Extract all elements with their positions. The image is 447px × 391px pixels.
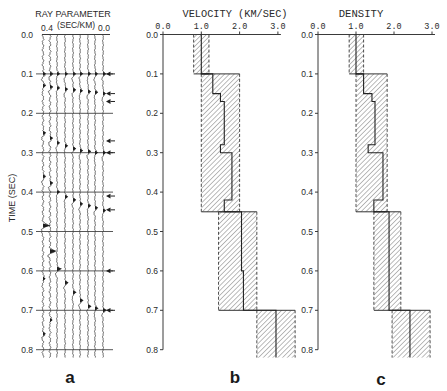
velocity-bounds-layer-fill (219, 212, 257, 310)
density-y-tick-label: 0.1 (301, 69, 313, 79)
panel-a-x-tick-label-right: 0.0 (98, 23, 110, 33)
density-y-tick-label: 0.7 (301, 305, 313, 315)
density-y-tick-label: 0.2 (301, 108, 313, 118)
density-x-tick-label: 3.0 (424, 22, 439, 32)
panel-a-y-tick-label: 0.6 (21, 266, 33, 276)
density-y-tick-label: 0.0 (301, 30, 313, 40)
velocity-x-tick-label: 3.0 (270, 22, 285, 32)
velocity-y-tick-label: 0.8 (146, 345, 158, 355)
panel-a-y-tick-label: 0.4 (21, 187, 33, 197)
density-y-tick-label: 0.4 (301, 187, 313, 197)
velocity-y-tick-label: 0.0 (146, 30, 158, 40)
velocity-x-tick-label: 1.0 (194, 22, 209, 32)
density-y-tick-label: 0.3 (301, 148, 313, 158)
velocity-x-tick-label: 2.0 (232, 22, 247, 32)
velocity-y-tick-label: 0.2 (146, 108, 158, 118)
velocity-y-tick-label: 0.3 (146, 148, 158, 158)
panel-a-y-tick-label: 0.0 (21, 30, 33, 40)
panel-c-letter: c (376, 370, 385, 389)
panel-a-y-tick-label: 0.3 (21, 148, 33, 158)
density-x-tick-label: 1.0 (348, 22, 363, 32)
density-y-tick-label: 0.5 (301, 227, 313, 237)
panel-a-y-axis-label: TIME (SEC) (7, 174, 17, 223)
density-y-tick-label: 0.8 (301, 345, 313, 355)
panel-a-y-tick-label: 0.2 (21, 108, 33, 118)
panel-a-y-tick-label: 0.8 (21, 345, 33, 355)
density-bounds-layer-fill (374, 212, 401, 310)
panel-a-y-tick-label: 0.1 (21, 69, 33, 79)
density-y-tick-label: 0.6 (301, 266, 313, 276)
velocity-y-tick-label: 0.4 (146, 187, 158, 197)
panel-c-title: DENSITY (339, 8, 384, 20)
panel-b-title: VELOCITY (KM/SEC) (182, 8, 287, 20)
velocity-y-tick-label: 0.5 (146, 227, 158, 237)
velocity-y-tick-label: 0.1 (146, 69, 158, 79)
panel-a-subtitle: (SEC/KM) (57, 20, 95, 30)
velocity-y-tick-label: 0.7 (146, 305, 158, 315)
density-bounds-layer-fill (392, 310, 430, 357)
density-x-tick-label: 2.0 (386, 22, 401, 32)
figure: RAY PARAMETER (SEC/KM) 0.4 0.0 TIME (SEC… (0, 0, 447, 391)
panel-a-y-tick-label: 0.5 (21, 227, 33, 237)
panel-a-letter: a (65, 368, 75, 387)
panel-a-title: RAY PARAMETER (35, 9, 111, 19)
panel-a-x-tick-label-left: 0.4 (41, 23, 53, 33)
panel-b-letter: b (230, 368, 240, 387)
velocity-y-tick-label: 0.6 (146, 266, 158, 276)
panel-a-y-tick-label: 0.7 (21, 305, 33, 315)
